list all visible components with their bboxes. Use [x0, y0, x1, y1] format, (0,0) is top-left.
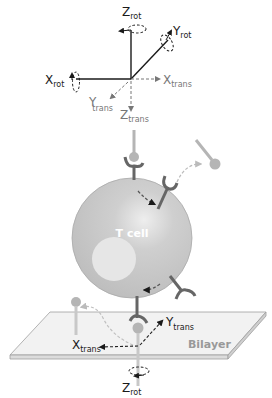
x-trans-label: Xtrans [163, 73, 192, 89]
y-rot-label: Yrot [172, 24, 192, 40]
ligand-top [129, 130, 139, 162]
z-trans-label: Ztrans [120, 108, 149, 124]
nucleus [92, 237, 136, 281]
x-rot-icon [73, 72, 80, 92]
receptor-lower-right [170, 276, 195, 299]
ligand-free [196, 140, 221, 170]
top-axes [72, 25, 176, 110]
bilayer-label: Bilayer [188, 338, 232, 351]
z-rot-label: Zrot [122, 5, 141, 21]
t-cell-label: T cell [116, 227, 149, 240]
x-rot-label: Xrot [45, 73, 64, 89]
dissociation-arrow-icon [177, 164, 200, 182]
bilayer-front-face [10, 355, 228, 359]
y-trans-arrow-icon [111, 82, 128, 98]
diagram-canvas: Zrot Yrot Xrot Xtrans Ytrans Ztrans T ce… [0, 0, 272, 398]
y-trans-label: Ytrans [88, 95, 113, 113]
